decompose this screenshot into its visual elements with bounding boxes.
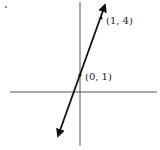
- point-label-0-1: (0, 1): [85, 71, 112, 82]
- stray-dot: [5, 6, 7, 8]
- coordinate-plane: (0, 1) (1, 4): [0, 0, 160, 150]
- point-0-1: [78, 73, 81, 76]
- point-1-4: [99, 16, 102, 19]
- point-label-1-4: (1, 4): [106, 15, 133, 26]
